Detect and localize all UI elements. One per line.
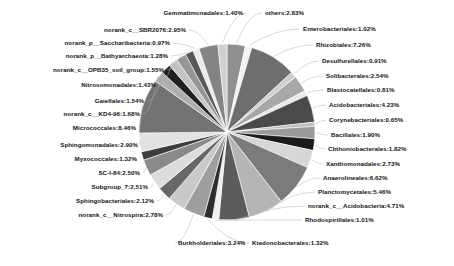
pie-leader-line — [316, 120, 326, 124]
pie-label-xanthomonadales: Xanthomonadales:2.73% — [326, 160, 400, 168]
pie-label-myxococcales: Myxococcales:1.32% — [0, 155, 137, 163]
pie-label-rhizobiales: Rhizobiales:7.26% — [316, 41, 371, 49]
pie-label-burkholderiales: Burkholderiales:3.24% — [178, 239, 245, 247]
pie-leader-line — [315, 145, 325, 149]
pie-label-norank-nitrospira: norank_c__Nitrospira:2.78% — [0, 211, 163, 219]
pie-label-norank-sbr2076: norank_c__SBR2076:2.95% — [0, 26, 186, 34]
pie-leader-line — [151, 183, 154, 187]
pie-leader-line — [316, 133, 328, 135]
pie-chart-figure: others:2.83%Enterobacteriales:1.02%Rhizo… — [0, 0, 454, 266]
pie-leader-line — [157, 194, 164, 201]
pie-leader-line — [140, 156, 141, 159]
pie-leader-line — [166, 205, 176, 215]
pie-label-micrococcales: Micrococcales:8.46% — [0, 124, 136, 132]
pie-leader-line — [143, 168, 146, 173]
pie-label-norank-bathyarchaeota: norank_p__Bathyarchaeota:1.28% — [0, 52, 168, 60]
pie-label-rhodospirillales: Rhodospirillales:1.01% — [305, 216, 374, 224]
pie-label-norank-opb35: norank_c__OPB35_soil_group:1.55% — [0, 66, 164, 74]
pie-label-norank-acidobacteria: norank_c__Acidobacteria:4.71% — [308, 202, 404, 210]
pie-label-gaiellales: Gaiellales:1.54% — [0, 97, 144, 105]
pie-leader-line — [313, 105, 326, 108]
pie-label-corynebacteriales: Corynebacteriales:0.65% — [329, 116, 403, 124]
pie-label-norank-saccharibacteria: norank_p__Saccharibacteria:0.97% — [0, 39, 170, 47]
pie-label-acidobacteriales: Acidobacteriales:4.23% — [329, 101, 399, 109]
pie-leader-line — [189, 30, 208, 45]
pie-leader-line — [222, 13, 246, 43]
pie-leader-line — [274, 45, 313, 56]
pie-label-sc-i-84: SC-I-84:2.50% — [0, 169, 140, 177]
pie-label-blastocatellales: Blastocatellales:0.81% — [327, 86, 394, 94]
pie-leader-line — [307, 90, 324, 93]
pie-label-chthoniobacterales: Chthoniobacterales:1.82% — [328, 145, 407, 153]
pie-leader-line — [236, 13, 262, 43]
pie-label-planctomycetales: Planctomycetales:5.46% — [318, 188, 391, 196]
pie-label-anaerolineales: Anaerolineales:6.62% — [323, 174, 388, 182]
pie-label-gemmatimonadales: Gemmatimonadales:1.40% — [0, 9, 243, 17]
pie-label-nitrosomonadales: Nitrosomonadales:1.43% — [0, 81, 156, 89]
pie-leader-line — [294, 61, 319, 74]
pie-label-sphingomonadales: Sphingomonadales:2.90% — [0, 141, 138, 149]
pie-leader-line — [301, 76, 323, 83]
pie-label-enterobacteriales: Enterobacteriales:1.02% — [303, 25, 376, 33]
pie-label-others: others:2.83% — [265, 9, 304, 17]
pie-label-bacillales: Bacillales:1.90% — [331, 131, 380, 139]
pie-label-desulfurellales: Desulfurellales:0.91% — [322, 57, 387, 65]
pie-label-norank-kd4-96: norank_c__KD4-96:1.68% — [0, 110, 140, 118]
pie-label-solibacterales: Solibacterales:2.54% — [326, 72, 389, 80]
pie-leader-line — [312, 160, 323, 165]
pie-leader-line — [249, 29, 300, 46]
pie-slices-group — [139, 44, 315, 220]
pie-label-subgroup-7: Subgroup_7:2.51% — [0, 183, 148, 191]
pie-label-ktedonobacterales: Ktedonobacterales:1.32% — [252, 239, 328, 247]
pie-label-sphingobacteriales: Sphingobacteriales:2.12% — [0, 197, 154, 205]
pie-leader-line — [173, 43, 196, 49]
